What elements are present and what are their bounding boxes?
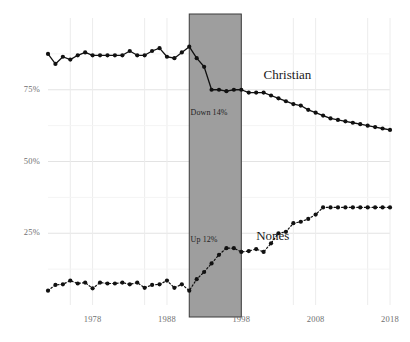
data-point bbox=[105, 281, 109, 285]
data-point bbox=[328, 116, 332, 120]
data-point bbox=[239, 88, 243, 92]
data-point bbox=[98, 53, 102, 57]
data-point bbox=[202, 270, 206, 274]
y-axis-tick-label: 75% bbox=[6, 84, 40, 94]
x-axis-tick-label: 1998 bbox=[216, 314, 266, 324]
data-point bbox=[358, 122, 362, 126]
data-point bbox=[83, 281, 87, 285]
data-point bbox=[314, 111, 318, 115]
data-point bbox=[195, 277, 199, 281]
data-point bbox=[366, 124, 370, 128]
data-point bbox=[46, 52, 50, 56]
data-point bbox=[209, 261, 213, 265]
data-point bbox=[291, 221, 295, 225]
data-point bbox=[76, 53, 80, 57]
data-point bbox=[366, 205, 370, 209]
data-point bbox=[172, 286, 176, 290]
data-point bbox=[262, 250, 266, 254]
data-point bbox=[150, 283, 154, 287]
data-point bbox=[299, 220, 303, 224]
data-point bbox=[284, 99, 288, 103]
data-point bbox=[180, 50, 184, 54]
data-point bbox=[157, 46, 161, 50]
data-point bbox=[314, 212, 318, 216]
data-point bbox=[61, 55, 65, 59]
data-point bbox=[120, 281, 124, 285]
x-axis-tick-label: 2008 bbox=[291, 314, 341, 324]
data-point bbox=[306, 108, 310, 112]
data-point bbox=[217, 88, 221, 92]
data-point bbox=[358, 205, 362, 209]
data-point bbox=[61, 282, 65, 286]
data-point bbox=[254, 247, 258, 251]
data-point bbox=[336, 118, 340, 122]
data-point bbox=[380, 205, 384, 209]
data-point bbox=[328, 205, 332, 209]
data-point bbox=[269, 93, 273, 97]
data-point bbox=[53, 283, 57, 287]
data-point bbox=[195, 56, 199, 60]
y-axis-tick-label: 25% bbox=[6, 227, 40, 237]
data-point bbox=[321, 113, 325, 117]
data-point bbox=[388, 128, 392, 132]
x-axis-tick-label: 1988 bbox=[142, 314, 192, 324]
data-point bbox=[262, 91, 266, 95]
down-annotation: Down 14% bbox=[191, 108, 228, 117]
data-point bbox=[187, 289, 191, 293]
data-point bbox=[165, 55, 169, 59]
data-point bbox=[224, 89, 228, 93]
data-point bbox=[143, 53, 147, 57]
data-point bbox=[343, 205, 347, 209]
data-point bbox=[180, 282, 184, 286]
data-point bbox=[306, 217, 310, 221]
data-point bbox=[83, 50, 87, 54]
data-point bbox=[321, 205, 325, 209]
data-point bbox=[143, 286, 147, 290]
data-point bbox=[68, 58, 72, 62]
y-axis-tick-label: 50% bbox=[6, 156, 40, 166]
data-point bbox=[343, 119, 347, 123]
up-annotation: Up 12% bbox=[191, 235, 218, 244]
series-label-nones: Nones bbox=[256, 228, 289, 244]
data-point bbox=[232, 246, 236, 250]
x-axis-tick-label: 1978 bbox=[68, 314, 118, 324]
data-point bbox=[120, 53, 124, 57]
data-point bbox=[276, 96, 280, 100]
data-point bbox=[113, 53, 117, 57]
data-point bbox=[336, 205, 340, 209]
data-point bbox=[68, 279, 72, 283]
data-point bbox=[150, 49, 154, 53]
data-point bbox=[217, 253, 221, 257]
data-point bbox=[239, 250, 243, 254]
data-point bbox=[128, 282, 132, 286]
x-axis-tick-label: 2018 bbox=[365, 314, 410, 324]
data-point bbox=[187, 45, 191, 49]
data-point bbox=[291, 102, 295, 106]
data-point bbox=[202, 65, 206, 69]
data-point bbox=[135, 281, 139, 285]
chart-container: 75%50%25%19781988199820082018ChristianNo… bbox=[0, 0, 410, 342]
data-point bbox=[388, 205, 392, 209]
data-point bbox=[128, 49, 132, 53]
data-point bbox=[113, 281, 117, 285]
data-point bbox=[172, 56, 176, 60]
chart-plot bbox=[0, 0, 410, 342]
data-point bbox=[98, 281, 102, 285]
data-point bbox=[247, 91, 251, 95]
data-point bbox=[105, 53, 109, 57]
data-point bbox=[247, 249, 251, 253]
data-point bbox=[373, 125, 377, 129]
data-point bbox=[299, 103, 303, 107]
data-point bbox=[232, 88, 236, 92]
data-point bbox=[91, 286, 95, 290]
data-point bbox=[135, 53, 139, 57]
data-point bbox=[76, 281, 80, 285]
data-point bbox=[165, 279, 169, 283]
data-point bbox=[351, 205, 355, 209]
data-point bbox=[380, 126, 384, 130]
data-point bbox=[351, 121, 355, 125]
data-point bbox=[209, 88, 213, 92]
data-point bbox=[53, 62, 57, 66]
data-point bbox=[157, 282, 161, 286]
series-label-christian: Christian bbox=[264, 67, 312, 83]
